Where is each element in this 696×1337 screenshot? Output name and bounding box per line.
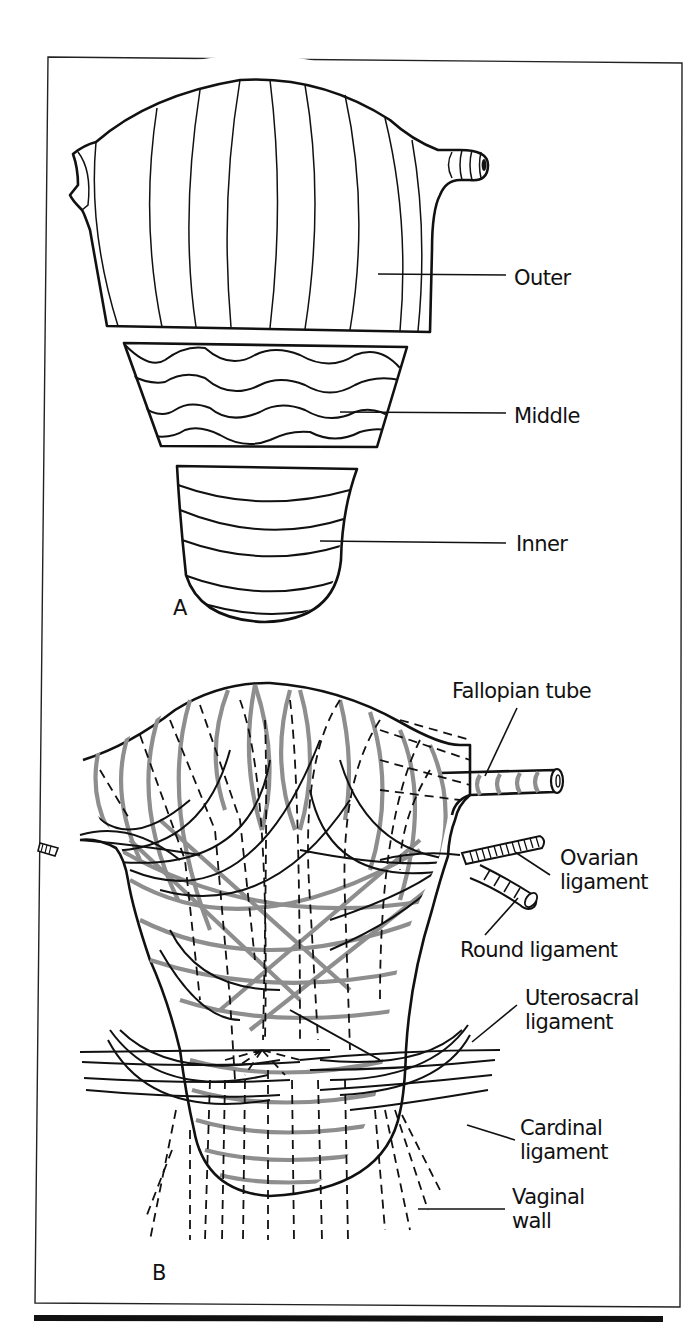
middle-wavy-fibers: [125, 345, 400, 444]
ovarian-ligament-label-line1: Ovarian: [560, 846, 638, 870]
middle-leader: [340, 412, 506, 413]
ovarian-ligament: [38, 836, 544, 864]
outer-layer: [50, 55, 488, 332]
round-ligament: [470, 865, 540, 909]
inner-leader: [320, 541, 506, 543]
panel-b: Fallopian tube Ovarian ligament Round li…: [38, 679, 648, 1285]
outer-label: Outer: [514, 266, 572, 290]
ovarian-ligament-label-line2: ligament: [560, 870, 648, 894]
panel-a-letter: A: [173, 596, 188, 620]
round-ligament-leader: [485, 898, 518, 935]
spiral-fibers-gray: [96, 685, 471, 1183]
cardinal-ligament-label-line2: ligament: [520, 1140, 608, 1164]
inner-label: Inner: [516, 532, 568, 556]
cardinal-ligament-label-line1: Cardinal: [520, 1116, 602, 1140]
vaginal-wall-label-line2: wall: [512, 1209, 551, 1233]
fallopian-tube-label: Fallopian tube: [452, 679, 591, 703]
figure-canvas: Outer Middle Inner A: [0, 0, 696, 1337]
uterosacral-ligament-leader: [472, 1005, 517, 1042]
middle-layer: [124, 343, 407, 447]
middle-label: Middle: [514, 404, 580, 428]
fallopian-tube-leader: [485, 708, 517, 776]
inner-layer-shape: [177, 466, 357, 622]
panel-a: Outer Middle Inner A: [50, 55, 580, 622]
panel-b-letter: B: [152, 1261, 166, 1285]
bottom-rule: [34, 1318, 663, 1319]
round-ligament-label: Round ligament: [460, 938, 618, 962]
outer-layer-shape: [70, 80, 488, 333]
uterosacral-ligament-label-line2: ligament: [525, 1010, 613, 1034]
inner-layer: [177, 466, 357, 622]
uterosacral-ligament-label-line1: Uterosacral: [525, 986, 639, 1010]
vaginal-wall-label-line1: Vaginal: [512, 1185, 585, 1209]
outer-leader: [378, 274, 506, 275]
cardinal-ligament-leader: [467, 1125, 515, 1140]
pelvic-ligament-lines: [80, 831, 500, 1110]
outer-longitudinal-fibers: [78, 80, 486, 331]
ovarian-ligament-leader: [515, 852, 550, 875]
